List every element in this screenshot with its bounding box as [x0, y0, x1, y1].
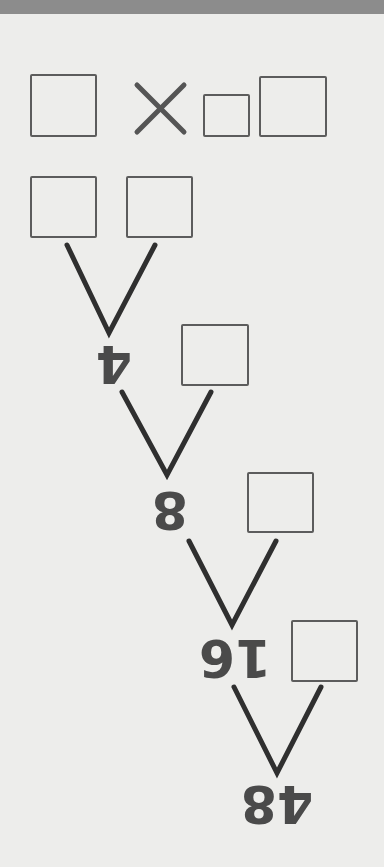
tree-node-4: 4 — [94, 338, 134, 390]
answer-box-level-3-side[interactable] — [291, 620, 358, 682]
answer-box-leaf-left[interactable] — [30, 176, 97, 238]
answer-box-level-2-side[interactable] — [247, 472, 314, 533]
tree-node-48: 48 — [237, 777, 317, 832]
multiply-icon — [137, 85, 184, 132]
answer-box-factor-1[interactable] — [30, 74, 97, 137]
answer-box-level-1-side[interactable] — [181, 324, 249, 386]
answer-box-factor-2-small[interactable] — [203, 94, 250, 137]
tree-node-8: 8 — [150, 483, 190, 537]
answer-box-leaf-right[interactable] — [126, 176, 193, 238]
answer-box-factor-2-large[interactable] — [259, 76, 327, 137]
tree-node-16: 16 — [196, 631, 274, 685]
